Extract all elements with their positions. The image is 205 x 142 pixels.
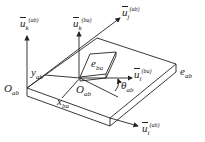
label-o-ab-center: Oab [76, 84, 91, 98]
label-x-ba: xba [57, 96, 69, 110]
label-u-j-ab: uj(ab) [122, 6, 139, 21]
label-u-k-ba: uk(ba) [73, 17, 92, 32]
label-y-ab: yab [31, 67, 43, 81]
label-u-i-ba: ui(ba) [134, 68, 151, 83]
label-theta-ab: θab [121, 80, 133, 94]
label-e-ab: eab [180, 66, 192, 80]
label-e-ba: eba [91, 58, 103, 72]
label-u-i-ab: ui(ab) [142, 122, 159, 137]
label-o-ab-left: Oab [4, 83, 19, 97]
label-u-k-ab: uk(ab) [20, 17, 39, 32]
